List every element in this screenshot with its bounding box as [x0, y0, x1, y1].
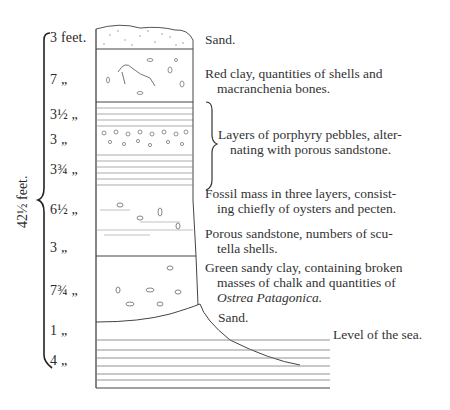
layer-description: Green sandy clay, containing broken mass…	[205, 260, 402, 305]
total-thickness-label: 42½ feet.	[15, 176, 31, 228]
thickness-label: 3½ „	[50, 107, 78, 123]
thickness-label: 7¾ „	[50, 283, 78, 299]
thickness-label: 3 „	[50, 132, 67, 148]
thickness-label: 3 feet.	[50, 30, 86, 46]
thickness-label: 3 „	[50, 240, 67, 256]
thickness-label: 4 „	[50, 353, 67, 369]
thickness-label: 6½ „	[50, 202, 78, 218]
sea-level-label: Level of the sea.	[333, 327, 422, 342]
layer-description: Red clay, quantities of shells and macra…	[205, 66, 383, 96]
layer-description: Fossil mass in three layers, consist- in…	[205, 186, 396, 216]
layer-description: Sand.	[205, 32, 235, 47]
thickness-label: 3¾ „	[50, 162, 78, 178]
layer-description: Sand.	[218, 310, 248, 325]
layer-description: Porous sandstone, numbers of scu- tella …	[205, 226, 393, 256]
thickness-label: 7 „	[50, 72, 67, 88]
thickness-label: 1 „	[50, 323, 67, 339]
layer-description: Layers of porphyry pebbles, alter- natin…	[218, 127, 402, 157]
